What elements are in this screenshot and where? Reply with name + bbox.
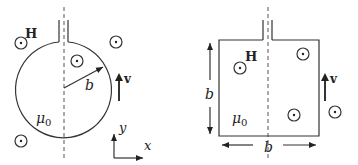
diagram-canvas: H b v μ0 y x [0,0,358,165]
field-out-of-page-icon [329,106,341,118]
y-axis-label: y [118,120,127,135]
field-out-of-page-icon [15,135,27,147]
field-label-h-right: H [245,49,257,64]
side-vertical-label: b [205,86,214,102]
velocity-label-right: v [329,72,338,86]
field-out-of-page-icon [234,62,246,74]
field-out-of-page-icon [71,55,83,67]
permeability-label-left: μ0 [36,110,51,128]
side-horizontal-label: b [264,139,273,155]
field-out-of-page-icon [110,36,122,48]
x-axis-label: x [144,138,152,153]
velocity-arrowhead-icon [321,73,329,81]
field-out-of-page-icon [288,109,300,121]
velocity-label-left: v [123,72,132,86]
left-figure: H b v μ0 y x [15,7,152,158]
radius-label: b [85,77,94,93]
field-out-of-page-icon [15,37,27,49]
permeability-label-right: μ0 [232,110,247,128]
right-figure: H v μ0 b b [205,7,341,158]
field-label-h-left: H [25,26,37,41]
radius-arrow-icon [64,67,103,88]
field-out-of-page-icon [297,48,309,60]
velocity-arrowhead-icon [115,73,123,81]
